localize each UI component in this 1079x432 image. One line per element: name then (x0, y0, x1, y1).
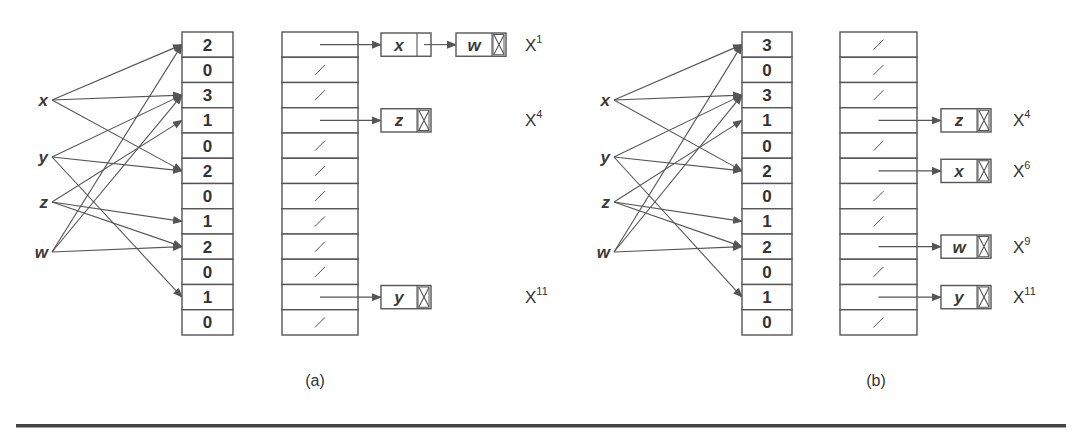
count-value: 0 (203, 137, 212, 156)
count-value: 0 (203, 263, 212, 282)
count-value: 1 (203, 288, 212, 307)
edge-w-to-row-2 (52, 95, 182, 252)
variable-x: x (38, 91, 50, 110)
count-value: 2 (203, 36, 212, 55)
list-node-label: w (467, 36, 482, 55)
variable-w: w (35, 243, 50, 262)
count-value: 2 (762, 238, 771, 257)
bucket-exponent: 11 (536, 285, 547, 297)
count-value: 0 (203, 61, 212, 80)
count-value: 1 (203, 212, 212, 231)
edge-w-to-row-8 (52, 247, 182, 252)
count-value: 2 (762, 162, 771, 181)
variable-w: w (597, 243, 612, 262)
count-value: 0 (762, 137, 771, 156)
list-node-label: x (393, 36, 405, 55)
variable-z: z (601, 193, 611, 212)
list-node-label: w (952, 238, 967, 257)
list-node-label: y (393, 288, 405, 307)
edge-y-to-row-5 (614, 157, 742, 171)
count-value: 1 (203, 111, 212, 130)
count-value: 1 (762, 111, 771, 130)
edge-z-to-row-7 (52, 202, 182, 221)
bucket-exponent: 6 (1024, 159, 1030, 171)
edge-x-to-row-5 (614, 100, 742, 171)
bucket-exponent: 1 (536, 33, 542, 45)
bucket-label: X6 (1013, 159, 1030, 181)
bucket-exponent: 11 (1024, 285, 1035, 297)
count-value: 0 (203, 313, 212, 332)
variable-y: y (38, 148, 50, 167)
bucket-label: X11 (1013, 285, 1036, 307)
edge-x-to-row-5 (52, 100, 182, 171)
count-value: 2 (203, 238, 212, 257)
edge-x-to-row-2 (614, 95, 742, 100)
edge-w-to-row-2 (614, 95, 742, 252)
bucket-label: X1 (525, 33, 542, 55)
bottom-rule (16, 424, 1066, 428)
count-value: 1 (762, 212, 771, 231)
variable-y: y (600, 148, 612, 167)
bucket-exponent: 4 (1024, 108, 1030, 120)
panel-caption: (a) (305, 372, 325, 389)
count-value: 0 (203, 187, 212, 206)
count-value: 3 (203, 86, 212, 105)
edge-x-to-row-2 (52, 95, 182, 100)
bucket-exponent: 4 (536, 108, 542, 120)
list-node-label: z (394, 111, 404, 130)
edge-y-to-row-5 (52, 157, 182, 171)
edge-w-to-row-8 (614, 247, 742, 252)
count-value: 1 (762, 288, 771, 307)
edge-y-to-row-10 (52, 157, 182, 297)
list-node-label: z (954, 111, 964, 130)
bucket-exponent: 9 (1024, 235, 1030, 247)
count-value: 3 (762, 86, 771, 105)
list-node-label: x (953, 162, 965, 181)
panel-caption: (b) (866, 372, 886, 389)
edge-z-to-row-3 (52, 120, 182, 202)
edge-z-to-row-7 (614, 202, 742, 221)
edge-z-to-row-3 (614, 120, 742, 202)
count-value: 0 (762, 263, 771, 282)
bucket-label: X4 (525, 108, 542, 130)
bucket-label: X9 (1013, 235, 1030, 257)
panel-a: xyzw203102012010xwX1zX4yX11(a) (35, 32, 548, 389)
edge-z-to-row-8 (52, 202, 182, 247)
list-node (381, 33, 431, 56)
count-value: 3 (762, 36, 771, 55)
variable-z: z (39, 193, 49, 212)
count-value: 0 (762, 187, 771, 206)
variable-x: x (600, 91, 612, 110)
bucket-label: X4 (1013, 108, 1030, 130)
edge-y-to-row-10 (614, 157, 742, 297)
edge-x-to-row-0 (52, 45, 182, 100)
bucket-label: X11 (525, 285, 548, 307)
edge-x-to-row-0 (614, 45, 742, 100)
list-node-label: y (953, 288, 965, 307)
bucket-diagram: xyzw203102012010xwX1zX4yX11(a) xyzw30310… (0, 0, 1079, 432)
count-value: 0 (762, 61, 771, 80)
count-value: 2 (203, 162, 212, 181)
edge-z-to-row-8 (614, 202, 742, 247)
panel-b: xyzw303102012010zX4xX6wX9yX11(b) (597, 32, 1036, 389)
count-value: 0 (762, 313, 771, 332)
